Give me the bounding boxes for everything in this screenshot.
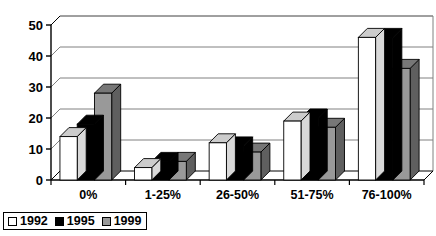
chart-canvas: 01020304050 0%1-25%26-50%51-75%76-100% [0, 0, 436, 205]
svg-text:10: 10 [29, 142, 43, 157]
legend-swatch-icon-0 [8, 217, 17, 226]
bar-1992-26-50% [209, 134, 235, 180]
x-axis-ticks [51, 180, 424, 185]
bar-series-group [60, 28, 419, 180]
svg-text:50: 50 [29, 18, 43, 33]
legend-label-2: 1999 [114, 215, 142, 228]
legend-swatch-icon-2 [102, 217, 111, 226]
legend-label-1: 1995 [67, 215, 95, 228]
svg-text:30: 30 [29, 80, 43, 95]
bar-1992-0% [60, 128, 86, 180]
chart-legend: 1992 1995 1999 [3, 212, 147, 230]
bar-1992-51-75% [284, 112, 310, 180]
x-axis-label-1: 1-25% [145, 188, 181, 202]
x-axis-label-2: 26-50% [216, 188, 259, 202]
x-axis-label-3: 51-75% [291, 188, 334, 202]
bar-chart: 01020304050 0%1-25%26-50%51-75%76-100% 1… [0, 0, 436, 236]
svg-text:20: 20 [29, 111, 43, 126]
plot-area: 01020304050 0%1-25%26-50%51-75%76-100% [0, 0, 436, 205]
y-axis-ticks: 01020304050 [29, 18, 51, 188]
x-axis-label-4: 76-100% [362, 188, 412, 202]
legend-label-0: 1992 [20, 215, 48, 228]
x-axis-label-0: 0% [79, 188, 97, 202]
legend-entry-1: 1995 [55, 215, 95, 228]
legend-entry-2: 1999 [102, 215, 142, 228]
svg-text:0: 0 [36, 173, 43, 188]
legend-entry-0: 1992 [8, 215, 48, 228]
x-axis-labels: 0%1-25%26-50%51-75%76-100% [79, 188, 411, 202]
bar-1992-76-100% [358, 28, 384, 180]
svg-text:40: 40 [29, 49, 43, 64]
legend-swatch-icon-1 [55, 217, 64, 226]
